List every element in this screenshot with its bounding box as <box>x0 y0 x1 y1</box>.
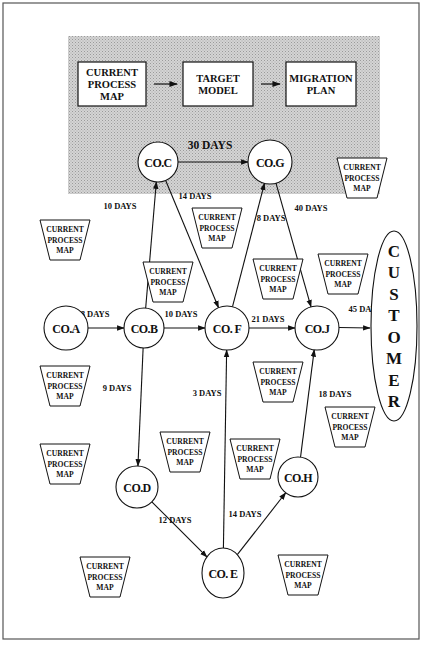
co-f-node: CO. F <box>205 306 249 350</box>
box-label: MAP <box>100 91 124 102</box>
box-label: TARGET <box>196 73 240 84</box>
process-map-label: MAP <box>56 470 74 479</box>
node-label: CO. F <box>213 322 242 336</box>
process-map-label: MAP <box>353 184 371 193</box>
process-map-label: CURRENT <box>198 213 236 222</box>
process-map-label: CURRENT <box>236 444 274 453</box>
co-g-node: CO.G <box>248 140 292 184</box>
node-label: CO. E <box>208 567 238 581</box>
migration-plan-box: MIGRATIONPLAN <box>286 62 356 106</box>
box-label: MIGRATION <box>289 73 353 84</box>
process-map-label: MAP <box>159 288 177 297</box>
edge-duration-label: 8 DAYS <box>257 213 286 223</box>
customer-letter: E <box>388 371 399 390</box>
customer-node: CUSTOMER <box>371 231 417 421</box>
edge-duration-label: 12 DAYS <box>159 515 192 525</box>
customer-letter: U <box>388 263 400 282</box>
customer-letter: S <box>389 285 398 304</box>
edge-duration-label: 10 DAYS <box>104 201 137 211</box>
process-map-label: CURRENT <box>259 367 297 376</box>
process-map-label: PROCESS <box>260 378 295 387</box>
process-map-label: CURRENT <box>46 225 84 234</box>
process-map-label: CURRENT <box>86 562 124 571</box>
node-label: CO.A <box>52 322 80 336</box>
process-flow-diagram: CURRENTPROCESSMAPTARGETMODELMIGRATIONPLA… <box>0 0 423 645</box>
process-map-label: MAP <box>294 581 312 590</box>
customer-letter: T <box>388 306 400 325</box>
node-label: CO.G <box>256 156 284 170</box>
planning-steps: CURRENTPROCESSMAPTARGETMODELMIGRATIONPLA… <box>78 62 356 106</box>
process-map-label: MAP <box>96 583 114 592</box>
process-map-label: MAP <box>269 388 287 397</box>
process-map-label: PROCESS <box>332 423 367 432</box>
node-label: CO.J <box>305 322 330 336</box>
process-map-label: MAP <box>56 392 74 401</box>
process-map-label: PROCESS <box>285 571 320 580</box>
process-map-label: CURRENT <box>46 371 84 380</box>
process-map-label: CURRENT <box>46 449 84 458</box>
node-label: CO.D <box>123 481 151 495</box>
edge-duration-label: 14 DAYS <box>179 191 212 201</box>
process-map-label: PROCESS <box>87 573 122 582</box>
edge-duration-label: 9 DAYS <box>103 383 132 393</box>
current-process-map-box: CURRENTPROCESSMAP <box>78 62 146 106</box>
node-label: CO.C <box>144 156 171 170</box>
process-map-label: PROCESS <box>47 460 82 469</box>
co-j-node: CO.J <box>295 306 339 350</box>
customer-letter: M <box>386 349 402 368</box>
process-map-label: CURRENT <box>324 259 362 268</box>
process-map-label: PROCESS <box>47 382 82 391</box>
co-h-node: CO.H <box>278 457 318 497</box>
process-map-label: PROCESS <box>47 236 82 245</box>
co-b-node: CO.B <box>124 308 164 348</box>
process-map-label: CURRENT <box>284 560 322 569</box>
customer-letter: O <box>387 328 400 347</box>
edge-duration-label: 30 DAYS <box>188 139 233 151</box>
edge-duration-label: 14 DAYS <box>229 509 262 519</box>
box-label: PLAN <box>307 85 336 96</box>
edge-co-j-to-customer <box>339 327 370 328</box>
process-map-label: PROCESS <box>150 278 185 287</box>
box-label: CURRENT <box>86 67 138 78</box>
process-map-label: CURRENT <box>166 437 204 446</box>
process-map-label: MAP <box>341 433 359 442</box>
process-map-label: MAP <box>269 285 287 294</box>
shaded-planning-region <box>68 36 380 194</box>
customer-letter: R <box>388 392 401 411</box>
process-map-label: PROCESS <box>344 174 379 183</box>
co-d-node: CO.D <box>116 466 158 508</box>
process-map-label: MAP <box>246 465 264 474</box>
target-model-box: TARGETMODEL <box>183 62 253 106</box>
process-map-label: PROCESS <box>237 455 272 464</box>
box-label: PROCESS <box>88 79 137 90</box>
process-map-label: MAP <box>56 246 74 255</box>
process-map-label: CURRENT <box>343 163 381 172</box>
co-a-node: CO.A <box>44 306 88 350</box>
edge-duration-label: 40 DAYS <box>295 203 328 213</box>
node-label: CO.H <box>284 471 313 485</box>
process-map-label: PROCESS <box>260 275 295 284</box>
process-map-label: CURRENT <box>149 267 187 276</box>
process-map-label: CURRENT <box>331 412 369 421</box>
node-label: CO.B <box>131 322 158 336</box>
process-map-label: MAP <box>176 458 194 467</box>
process-map-label: PROCESS <box>199 224 234 233</box>
edge-duration-label: 21 DAYS <box>252 314 285 324</box>
box-label: MODEL <box>198 85 238 96</box>
edge-duration-label: 18 DAYS <box>319 389 352 399</box>
process-map-label: MAP <box>208 234 226 243</box>
co-e-node: CO. E <box>202 548 244 598</box>
process-map-label: CURRENT <box>259 264 297 273</box>
co-c-node: CO.C <box>138 142 178 182</box>
process-map-label: MAP <box>334 280 352 289</box>
customer-letter: C <box>388 242 400 261</box>
process-map-label: PROCESS <box>167 448 202 457</box>
process-map-label: PROCESS <box>325 270 360 279</box>
edge-duration-label: 3 DAYS <box>193 388 222 398</box>
edge-duration-label: 10 DAYS <box>165 309 198 319</box>
